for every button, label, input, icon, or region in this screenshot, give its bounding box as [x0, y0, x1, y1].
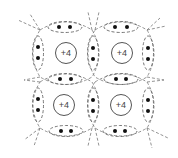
bond-lens-middle-right [104, 74, 138, 85]
electron-dot [91, 57, 95, 61]
bond-lens-center-upper [88, 36, 99, 70]
electron-dot [146, 57, 150, 61]
nucleus-top-right: +4 [112, 43, 133, 64]
electron-dot [113, 25, 117, 29]
electron-dot [113, 129, 117, 133]
electron-dot [146, 109, 150, 113]
nucleus-charge-label: +4 [116, 100, 126, 110]
bonds [33, 22, 154, 137]
electron-dot [68, 25, 72, 29]
bond-lens-middle-left [48, 74, 82, 85]
electrons [36, 25, 150, 133]
electron-dot [36, 45, 40, 49]
silicon-lattice-diagram: +4 +4 +4 +4 [0, 0, 178, 158]
electron-dot [36, 56, 40, 60]
nucleus-charge-label: +4 [117, 48, 127, 58]
bond-lens-bottom-right-outer [103, 126, 137, 137]
electron-dot [57, 25, 61, 29]
nucleus-bottom-left: +4 [54, 95, 75, 116]
electron-dot [114, 77, 118, 81]
electron-dot [123, 129, 127, 133]
electron-dot [125, 25, 129, 29]
electron-dot [58, 77, 62, 81]
electron-dot [59, 129, 63, 133]
bond-lens-bottom-left-outer [49, 126, 83, 137]
nucleus-bottom-right: +4 [111, 95, 132, 116]
electron-dot [124, 77, 128, 81]
bond-lens-right-upper-outer [143, 36, 154, 70]
electron-dot [91, 46, 95, 50]
bond-lens-left-upper-outer [33, 36, 44, 70]
bond-lens-center-lower [88, 88, 99, 122]
bond-lens-top-left-outer [48, 22, 82, 33]
electron-dot [91, 109, 95, 113]
nucleus-charge-label: +4 [61, 48, 71, 58]
electron-dot [69, 129, 73, 133]
electron-dot [69, 77, 73, 81]
electron-dot [146, 46, 150, 50]
bond-lens-right-lower-outer [143, 88, 154, 122]
electron-dot [36, 97, 40, 101]
electron-dot [36, 108, 40, 112]
electron-dot [91, 98, 95, 102]
atom-shells [18, 12, 168, 148]
bond-lens-left-lower-outer [33, 88, 44, 122]
nucleus-charge-label: +4 [59, 100, 69, 110]
electron-dot [146, 98, 150, 102]
bond-lens-top-right-outer [104, 22, 138, 33]
nucleus-top-left: +4 [56, 43, 77, 64]
